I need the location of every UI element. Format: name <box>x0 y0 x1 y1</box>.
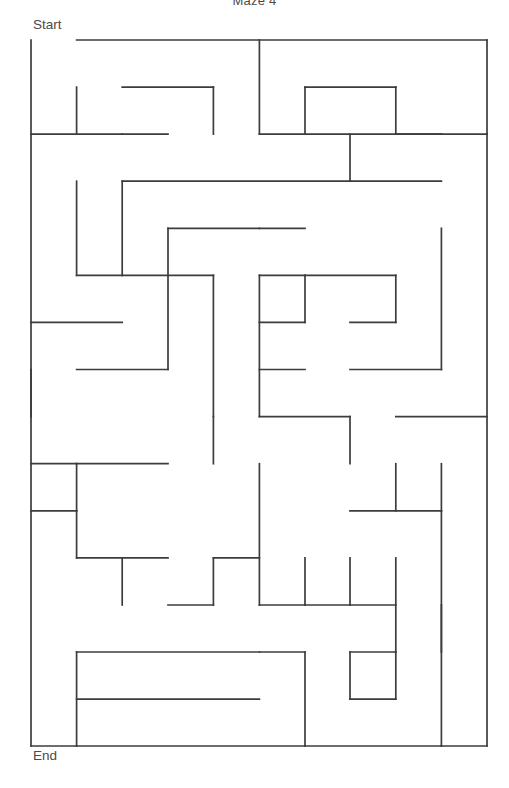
maze-page: Maze 4 Start End <box>0 0 509 788</box>
maze-grid <box>0 0 509 788</box>
